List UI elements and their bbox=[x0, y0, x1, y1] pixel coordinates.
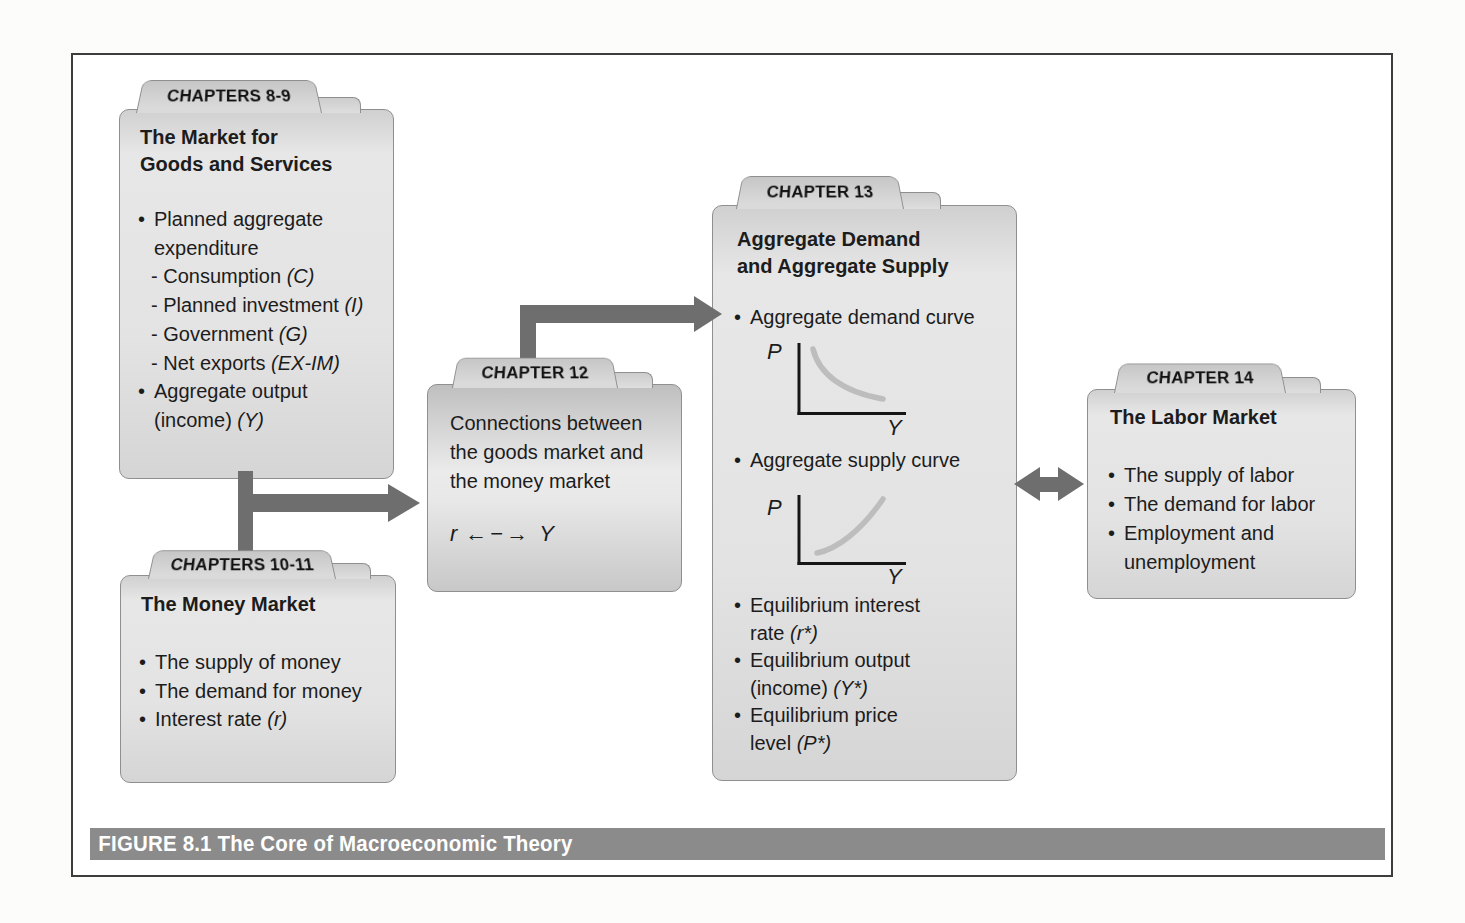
card-body-text: •The supply of labor •The demand for lab… bbox=[1108, 461, 1315, 577]
text-line: the money market bbox=[450, 467, 643, 496]
demand-curve bbox=[813, 349, 883, 399]
folder-tab-chapter-12: CHAPTER 12 bbox=[452, 358, 618, 388]
chapter-tab-label: CHAPTER 12 bbox=[480, 363, 590, 382]
aggregate-supply-mini-chart: P Y bbox=[759, 479, 909, 587]
list-item: •The supply of labor bbox=[1108, 461, 1315, 490]
bullet-marker: • bbox=[734, 306, 750, 329]
list-item: •Interest rate (r) bbox=[139, 705, 362, 734]
list-item: •The demand for labor bbox=[1108, 490, 1315, 519]
bullet-marker: • bbox=[138, 205, 154, 234]
card-labor-market: CHAPTER 14 The Labor Market •The supply … bbox=[1087, 389, 1356, 599]
text-line: the goods market and bbox=[450, 438, 643, 467]
folder-tab-chapter-13: CHAPTER 13 bbox=[736, 176, 904, 209]
list-item: - Government (G) bbox=[138, 320, 363, 349]
y-axis-label: Y bbox=[887, 564, 903, 587]
folder-tab-chapters-8-9: CHAPTERS 8-9 bbox=[136, 80, 322, 113]
list-item: •Employment and bbox=[1108, 519, 1315, 548]
list-item: (income) (Y*) bbox=[734, 675, 920, 703]
title-line: The Money Market bbox=[141, 591, 315, 618]
list-item: (income) (Y) bbox=[138, 406, 363, 435]
list-item: •The supply of money bbox=[139, 648, 362, 677]
list-item: level (P*) bbox=[734, 730, 920, 758]
ad-curve-bullet: •Aggregate demand curve bbox=[734, 306, 975, 329]
figure-caption-bar: FIGURE 8.1 The Core of Macroeconomic The… bbox=[90, 828, 1385, 860]
title-line: The Labor Market bbox=[1110, 404, 1277, 431]
bullet-marker: • bbox=[138, 377, 154, 406]
list-item: •Aggregate demand curve bbox=[734, 306, 975, 329]
card-goods-market: CHAPTERS 8-9 The Market for Goods and Se… bbox=[119, 109, 394, 479]
bullet-marker: • bbox=[139, 648, 155, 677]
y-axis-label: Y bbox=[887, 415, 903, 440]
list-item: - Planned investment (I) bbox=[138, 291, 363, 320]
p-axis-label: P bbox=[767, 339, 782, 364]
card-title: The Labor Market bbox=[1110, 404, 1277, 431]
bullet-marker: • bbox=[1108, 519, 1124, 548]
card-connections: CHAPTER 12 Connections between the goods… bbox=[427, 384, 682, 592]
list-item: •Aggregate output bbox=[138, 377, 363, 406]
as-curve-bullet: •Aggregate supply curve bbox=[734, 449, 960, 472]
card-body-text: Connections between the goods market and… bbox=[450, 409, 643, 495]
list-item: •Equilibrium output bbox=[734, 647, 920, 675]
title-line: Aggregate Demand bbox=[737, 226, 949, 253]
folder-tab-chapter-14: CHAPTER 14 bbox=[1114, 364, 1286, 393]
bullet-marker: • bbox=[734, 702, 750, 730]
list-item: •Planned aggregate bbox=[138, 205, 363, 234]
title-line: and Aggregate Supply bbox=[737, 253, 949, 280]
bullet-marker: • bbox=[1108, 490, 1124, 519]
list-item: •The demand for money bbox=[139, 677, 362, 706]
card-title: The Market for Goods and Services bbox=[140, 124, 332, 178]
card-title: The Money Market bbox=[141, 591, 315, 618]
supply-curve bbox=[817, 499, 883, 553]
card-title: Aggregate Demand and Aggregate Supply bbox=[737, 226, 949, 280]
card-body-text: •The supply of money •The demand for mon… bbox=[139, 648, 362, 734]
chapter-tab-label: CHAPTERS 8-9 bbox=[166, 87, 293, 106]
double-arrow-glyph: ←−→ bbox=[457, 521, 539, 546]
bullet-marker: • bbox=[734, 647, 750, 675]
r-y-relation-formula: r←−→Y bbox=[450, 521, 554, 547]
bullet-marker: • bbox=[734, 449, 750, 472]
list-item: •Equilibrium interest bbox=[734, 592, 920, 620]
folder-tab-chapters-10-11: CHAPTERS 10-11 bbox=[148, 550, 336, 579]
list-item: - Net exports (EX-IM) bbox=[138, 349, 363, 378]
figure-caption: FIGURE 8.1 The Core of Macroeconomic The… bbox=[90, 831, 572, 857]
figure-frame: CHAPTERS 8-9 The Market for Goods and Se… bbox=[71, 53, 1393, 877]
textbook-figure-page: CHAPTERS 8-9 The Market for Goods and Se… bbox=[0, 0, 1465, 923]
chapter-tab-label: CHAPTER 14 bbox=[1145, 369, 1255, 388]
list-item: - Consumption (C) bbox=[138, 262, 363, 291]
bullet-marker: • bbox=[139, 677, 155, 706]
list-item: •Aggregate supply curve bbox=[734, 449, 960, 472]
bullet-marker: • bbox=[734, 592, 750, 620]
list-item: •Equilibrium price bbox=[734, 702, 920, 730]
card-body-text: •Planned aggregate expenditure - Consump… bbox=[138, 205, 363, 435]
equilibrium-bullets: •Equilibrium interest rate (r*) •Equilib… bbox=[734, 592, 920, 758]
bullet-marker: • bbox=[139, 705, 155, 734]
text-line: Connections between bbox=[450, 409, 643, 438]
bullet-marker: • bbox=[1108, 461, 1124, 490]
title-line: The Market for bbox=[140, 124, 332, 151]
chapter-tab-label: CHAPTERS 10-11 bbox=[169, 555, 315, 574]
list-item: rate (r*) bbox=[734, 620, 920, 648]
list-item: unemployment bbox=[1108, 548, 1315, 577]
list-item: expenditure bbox=[138, 234, 363, 263]
card-money-market: CHAPTERS 10-11 The Money Market •The sup… bbox=[120, 575, 396, 783]
aggregate-demand-mini-chart: P Y bbox=[759, 332, 909, 440]
p-axis-label: P bbox=[767, 495, 782, 520]
chapter-tab-label: CHAPTER 13 bbox=[765, 183, 874, 202]
title-line: Goods and Services bbox=[140, 151, 332, 178]
card-ad-as: CHAPTER 13 Aggregate Demand and Aggregat… bbox=[712, 205, 1017, 781]
